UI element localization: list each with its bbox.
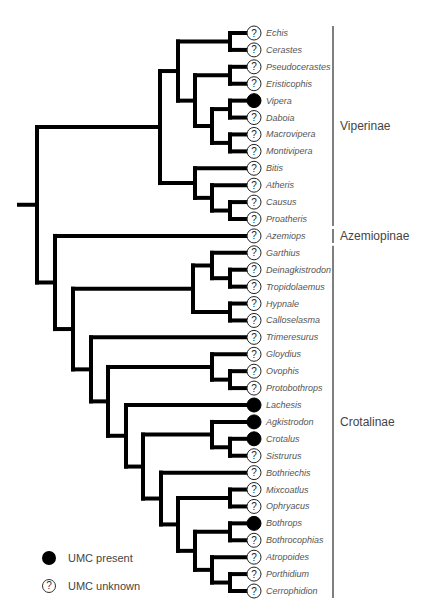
question-mark: ?: [251, 247, 257, 258]
tip-bothrocophias: ?Bothrocophias: [247, 533, 324, 547]
question-mark: ?: [251, 383, 257, 394]
tip-porthidium: ?Porthidium: [247, 567, 310, 581]
tip-label: Daboia: [266, 113, 295, 123]
tip-crotalus: Crotalus: [247, 432, 300, 446]
question-mark: ?: [251, 264, 257, 275]
tip-lachesis: Lachesis: [247, 398, 302, 412]
question-mark: ?: [251, 332, 257, 343]
tip-label: Trimeresurus: [266, 332, 319, 342]
tip-garthius: ?Garthius: [247, 246, 301, 260]
clade-label-viperinae: Viperinae: [340, 119, 391, 133]
question-mark: ?: [251, 180, 257, 191]
question-mark: ?: [251, 163, 257, 174]
filled-circle-icon: [247, 94, 261, 108]
tip-vipera: Vipera: [247, 94, 292, 108]
question-mark: ?: [251, 484, 257, 495]
tip-daboia: ?Daboia: [247, 111, 295, 125]
tip-label: Macrovipera: [266, 129, 316, 139]
question-mark: ?: [251, 214, 257, 225]
tree-tips: ?Echis?Cerastes?Pseudocerastes?Eristicop…: [247, 26, 331, 598]
question-mark: ?: [251, 366, 257, 377]
tip-mixcoatlus: ?Mixcoatlus: [247, 483, 309, 497]
tip-label: Tropidolaemus: [266, 282, 325, 292]
tip-bitis: ?Bitis: [247, 161, 284, 175]
question-mark: ?: [251, 146, 257, 157]
tip-cerrophidion: ?Cerrophidion: [247, 584, 318, 598]
question-mark: ?: [251, 61, 257, 72]
tip-label: Cerrophidion: [266, 586, 318, 596]
filled-circle-icon: [247, 516, 261, 530]
question-mark: ?: [251, 349, 257, 360]
legend-item-unknown: ? UMC unknown: [42, 572, 140, 600]
clade-label-azemiopinae: Azemiopinae: [340, 229, 410, 243]
tip-agkistrodon: Agkistrodon: [247, 415, 314, 429]
question-mark: ?: [251, 112, 257, 123]
filled-circle-icon: [42, 551, 56, 565]
tip-deinagkistrodon: ?Deinagkistrodon: [247, 263, 331, 277]
tip-echis: ?Echis: [247, 26, 289, 40]
tip-label: Azemiops: [265, 231, 306, 241]
filled-circle-icon: [247, 432, 261, 446]
tree-branches: [19, 33, 247, 591]
tip-label: Porthidium: [266, 569, 310, 579]
question-mark: ?: [251, 28, 257, 39]
clade-brackets: ViperinaeAzemiopinaeCrotalinae: [333, 26, 410, 598]
tip-label: Calloselasma: [266, 315, 320, 325]
tip-label: Gloydius: [266, 349, 302, 359]
tip-calloselasma: ?Calloselasma: [247, 313, 320, 327]
clade-label-crotalinae: Crotalinae: [340, 415, 395, 429]
question-mark: ?: [251, 450, 257, 461]
tip-label: Crotalus: [266, 434, 300, 444]
tip-label: Agkistrodon: [265, 417, 314, 427]
tip-bothrops: Bothrops: [247, 516, 303, 530]
question-mark: ?: [251, 129, 257, 140]
tip-label: Ophryacus: [266, 501, 310, 511]
tip-atheris: ?Atheris: [247, 178, 295, 192]
tip-label: Mixcoatlus: [266, 485, 309, 495]
tip-label: Eristicophis: [266, 79, 313, 89]
tip-hypnale: ?Hypnale: [247, 297, 299, 311]
tip-label: Echis: [266, 28, 289, 38]
tip-ovophis: ?Ovophis: [247, 364, 300, 378]
tip-label: Montivipera: [266, 146, 313, 156]
question-circle-icon: ?: [42, 579, 56, 593]
tip-label: Cerastes: [266, 45, 303, 55]
tip-proatheris: ?Proatheris: [247, 212, 308, 226]
tip-label: Bothrocophias: [266, 535, 324, 545]
tip-label: Atheris: [265, 180, 295, 190]
tip-atropoides: ?Atropoides: [247, 550, 310, 564]
tip-label: Bitis: [266, 163, 284, 173]
tip-label: Bothriechis: [266, 468, 311, 478]
tip-trimeresurus: ?Trimeresurus: [247, 330, 319, 344]
question-mark: ?: [251, 535, 257, 546]
legend-label: UMC unknown: [68, 580, 140, 592]
tip-azemiops: ?Azemiops: [247, 229, 306, 243]
tip-label: Sistrurus: [266, 451, 302, 461]
question-mark: ?: [251, 467, 257, 478]
legend-item-present: UMC present: [42, 544, 140, 572]
tip-label: Proatheris: [266, 214, 308, 224]
tip-tropidolaemus: ?Tropidolaemus: [247, 280, 325, 294]
tip-gloydius: ?Gloydius: [247, 347, 302, 361]
legend-label: UMC present: [68, 552, 133, 564]
tip-label: Bothrops: [266, 518, 303, 528]
tip-label: Garthius: [266, 248, 301, 258]
tip-montivipera: ?Montivipera: [247, 144, 313, 158]
tip-label: Hypnale: [266, 299, 299, 309]
question-mark: ?: [251, 552, 257, 563]
question-mark: ?: [251, 197, 257, 208]
tip-macrovipera: ?Macrovipera: [247, 127, 316, 141]
tip-sistrurus: ?Sistrurus: [247, 449, 302, 463]
question-mark: ?: [251, 315, 257, 326]
tip-cerastes: ?Cerastes: [247, 43, 303, 57]
tip-label: Deinagkistrodon: [266, 265, 331, 275]
tip-ophryacus: ?Ophryacus: [247, 499, 310, 513]
filled-circle-icon: [247, 398, 261, 412]
tip-label: Protobothrops: [266, 383, 323, 393]
question-mark: ?: [251, 281, 257, 292]
tip-label: Pseudocerastes: [266, 62, 331, 72]
tip-eristicophis: ?Eristicophis: [247, 77, 313, 91]
tip-label: Vipera: [266, 96, 292, 106]
tip-protobothrops: ?Protobothrops: [247, 381, 323, 395]
filled-circle-icon: [247, 415, 261, 429]
